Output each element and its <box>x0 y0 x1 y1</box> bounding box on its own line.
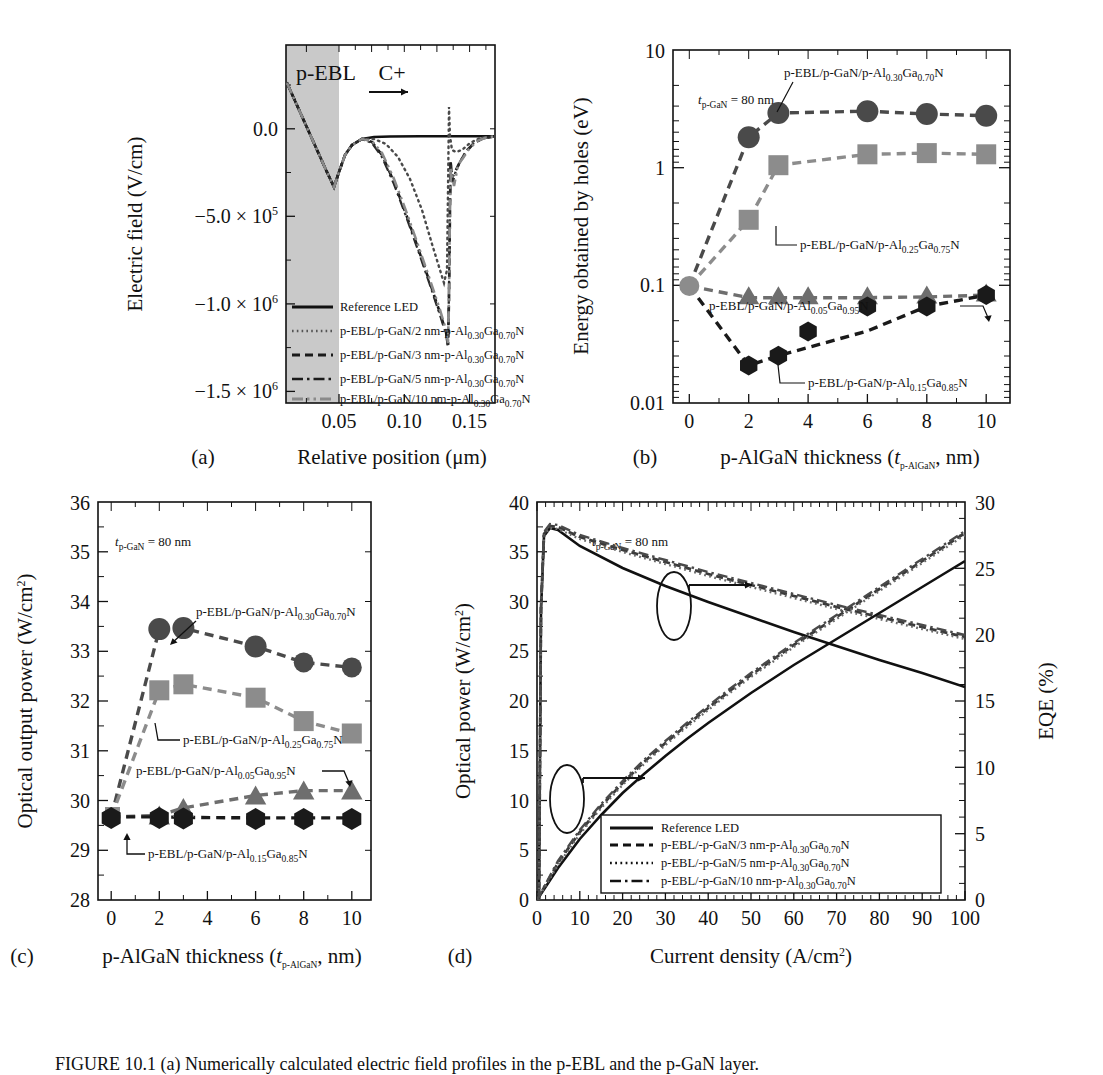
panel-d-ytick-right-1: 25 <box>975 558 995 580</box>
panel-d-xtick-8: 80 <box>869 907 889 929</box>
panel-d-ytick-left-0: 40 <box>509 492 529 514</box>
panel-d-xtick-4: 40 <box>698 907 718 929</box>
panel-c-xtick-3: 6 <box>251 907 261 929</box>
panel-b-xtick-4: 8 <box>922 410 932 432</box>
panel-d-ytick-right-0: 30 <box>975 492 995 514</box>
panel-b-annotation-1: p-EBL/p-GaN/p-Al0.25Ga0.75N <box>800 237 960 255</box>
panel-d-ytick-left-2: 30 <box>509 591 529 613</box>
panel-a-xtick-1: 0.10 <box>387 410 422 432</box>
panel-a-svg: 0.0 −5.0 × 105 −1.0 × 106 −1.5 × 106 0.0… <box>0 0 540 480</box>
panel-b-xtick-3: 6 <box>862 410 872 432</box>
panel-c-leader-2 <box>322 771 353 787</box>
figure-caption: FIGURE 10.1 (a) Numerically calculated e… <box>55 1052 1055 1075</box>
panel-c-series-lines <box>111 628 352 818</box>
panel-b-ytick-0: 10 <box>645 40 665 62</box>
panel-b-annotation-2: p-EBL/p-GaN/p-Al0.05Ga0.95N <box>709 298 869 316</box>
panel-d-xtick-9: 90 <box>912 907 932 929</box>
panel-b-leader-3 <box>778 365 805 383</box>
panel-d-xlabel: Current density (A/cm2) <box>650 944 852 968</box>
panel-d-ytick-left-6: 10 <box>509 790 529 812</box>
panel-c-xtick-2: 4 <box>202 907 212 929</box>
panel-d-ytick-left-5: 15 <box>509 740 529 762</box>
panel-a-ylabel: Electric field (V/cm) <box>123 137 147 312</box>
panel-c-ytick-8: 28 <box>70 889 90 911</box>
panel-a-ytick-3: −1.5 × 106 <box>194 379 278 402</box>
panel-c-ytick-5: 31 <box>70 740 90 762</box>
panel-b-xtick-5: 10 <box>976 410 996 432</box>
panel-d-ytick-left-7: 5 <box>519 839 529 861</box>
panel-b-xtick-1: 2 <box>744 410 754 432</box>
panel-b-ytick-1: 1 <box>655 157 665 179</box>
panel-b-ytick-2: 0.1 <box>640 274 665 296</box>
panel-b-ytick-3: 0.01 <box>630 392 665 414</box>
panel-c-leader-1 <box>155 723 180 740</box>
panel-d-ylabel-right: EQE (%) <box>1034 662 1058 740</box>
panel-c-ytick-2: 34 <box>70 591 90 613</box>
panel-d-ytick-left-3: 25 <box>509 640 529 662</box>
panel-a-xtick-0: 0.05 <box>322 410 357 432</box>
panel-b-xtick-2: 4 <box>803 410 813 432</box>
panel-c-annotation-0: p-EBL/p-GaN/p-Al0.30Ga0.70N <box>196 604 356 622</box>
panel-a-ytick-0: 0.0 <box>253 118 278 140</box>
panel-d-ylabel-left: Optical power (W/cm2) <box>451 603 475 799</box>
panel-c-ytick-7: 29 <box>70 839 90 861</box>
panel-d-ytick-right-2: 20 <box>975 624 995 646</box>
panel-a-id: (a) <box>191 445 214 469</box>
panel-d-xtick-7: 70 <box>827 907 847 929</box>
panel-d-xtick-3: 30 <box>655 907 675 929</box>
panel-b: 10 1 0.1 0.01 0 2 4 6 8 10 Energy obtain… <box>540 0 1103 480</box>
legend-label-4: p-EBL/p-GaN/10 nm-p-Al0.30Ga0.70N <box>340 392 531 409</box>
panel-d-legend: Reference LED p-EBL/-p-GaN/3 nm-p-Al0.30… <box>601 815 941 893</box>
panel-c-leader-3 <box>123 833 145 854</box>
panel-d: 40 35 30 25 20 15 10 5 0 30 25 20 15 10 … <box>440 480 1103 1075</box>
panel-a-xlabel: Relative position (μm) <box>297 445 487 469</box>
panel-a-xtick-2: 0.15 <box>452 410 487 432</box>
panel-d-id: (d) <box>448 944 473 968</box>
panel-c-annotation-2: p-EBL/p-GaN/p-Al0.05Ga0.95N <box>136 763 296 781</box>
c-plus-label: C+ <box>378 60 405 85</box>
panel-d-ytick-left-8: 0 <box>519 889 529 911</box>
panel-c-id: (c) <box>10 944 33 968</box>
panel-d-ytick-right-5: 5 <box>975 823 985 845</box>
panel-c-annotation-3: p-EBL/p-GaN/p-Al0.15Ga0.85N <box>148 846 308 864</box>
panel-c-annotation-1: p-EBL/p-GaN/p-Al0.25Ga0.75N <box>183 732 343 750</box>
panel-b-xlabel: p-AlGaN thickness (tp-AlGaN, nm) <box>720 445 979 471</box>
panel-a: 0.0 −5.0 × 105 −1.0 × 106 −1.5 × 106 0.0… <box>0 0 540 480</box>
panel-d-svg: 40 35 30 25 20 15 10 5 0 30 25 20 15 10 … <box>440 480 1103 1075</box>
c-plus-arrow-icon <box>369 88 408 95</box>
panel-c-x-ticks <box>111 502 352 900</box>
panel-c-xtick-5: 10 <box>342 907 362 929</box>
panel-d-xtick-6: 60 <box>784 907 804 929</box>
panel-c-ytick-1: 35 <box>70 541 90 563</box>
panel-b-annotation-0: p-EBL/p-GaN/p-Al0.30Ga0.70N <box>784 65 944 83</box>
panel-a-ytick-2: −1.0 × 106 <box>194 292 278 315</box>
panel-d-ytick-right-3: 15 <box>975 690 995 712</box>
panel-c-ytick-0: 36 <box>70 492 90 514</box>
panel-b-annotation-3: p-EBL/p-GaN/p-Al0.15Ga0.85N <box>808 375 968 393</box>
panel-b-ylabel: Energy obtained by holes (eV) <box>569 97 593 354</box>
panel-c-frame <box>98 502 371 900</box>
panel-c-ylabel: Optical output power (W/cm2) <box>13 573 37 828</box>
panel-d-ytick-right-4: 10 <box>975 757 995 779</box>
panel-b-note: tp-GaN = 80 nm <box>698 92 774 110</box>
panel-c-xlabel: p-AlGaN thickness (tp-AlGaN, nm) <box>102 944 361 970</box>
panel-c-xtick-1: 2 <box>154 907 164 929</box>
panel-b-svg: 10 1 0.1 0.01 0 2 4 6 8 10 Energy obtain… <box>540 0 1103 480</box>
panel-c-ytick-4: 32 <box>70 690 90 712</box>
panel-a-ytick-1: −5.0 × 105 <box>194 204 278 227</box>
legend-label-3: p-EBL/p-GaN/5 nm-p-Al0.30Ga0.70N <box>340 372 524 389</box>
panel-b-id: (b) <box>633 445 658 469</box>
panel-d-xtick-5: 50 <box>741 907 761 929</box>
panel-d-right-y-ticks <box>955 518 965 883</box>
panel-d-ytick-left-1: 35 <box>509 541 529 563</box>
p-ebl-label: p-EBL <box>296 60 356 85</box>
panel-c-note: tp-GaN = 80 nm <box>115 534 191 552</box>
panel-b-leader-2 <box>960 306 992 322</box>
panel-d-xtick-0: 0 <box>532 907 542 929</box>
panel-d-xtick-10: 100 <box>950 907 980 929</box>
panel-d-xtick-1: 10 <box>570 907 590 929</box>
legend-label-0: Reference LED <box>340 300 418 314</box>
legend-label-1: p-EBL/p-GaN/2 nm-p-Al0.30Ga0.70N <box>340 324 524 341</box>
legend-d-label-0: Reference LED <box>661 821 739 835</box>
panel-b-xtick-0: 0 <box>684 410 694 432</box>
